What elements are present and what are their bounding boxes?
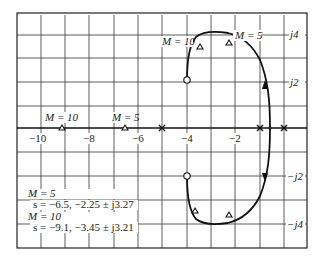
marker-m10-real: [59, 125, 65, 130]
y-tick-minus-j2: −j2: [287, 170, 303, 182]
legend-line-4: s = −9.1, −3.45 ± j3.21: [33, 221, 134, 233]
y-tick-j2: j2: [288, 76, 299, 88]
root-locus-plot: −10 −8 −6 −4 −2 j4 j2 −j2 −j4 M = 10 M =…: [0, 0, 321, 261]
label-m10-complex: M = 10: [161, 35, 196, 47]
label-m10-real: M = 10: [44, 111, 79, 123]
label-m5-real: M = 5: [111, 111, 140, 123]
x-tick-minus-8: −8: [83, 132, 95, 144]
x-tick-minus-4: −4: [181, 132, 193, 144]
legend-line-2: s = −6.5, −2.25 ± j3.27: [33, 198, 134, 210]
x-tick-minus-6: −6: [132, 132, 144, 144]
marker-m5-upper: [226, 40, 232, 45]
x-tick-minus-2: −2: [229, 132, 241, 144]
x-tick-minus-10: −10: [29, 132, 47, 144]
marker-m10-upper: [197, 44, 203, 49]
marker-m10-lower: [192, 208, 198, 213]
legend: M = 5 s = −6.5, −2.25 ± j3.27 M = 10 s =…: [26, 187, 138, 233]
zero-lower: [184, 173, 190, 179]
arrow-down-icon: [262, 173, 268, 182]
y-tick-j4: j4: [288, 28, 299, 40]
zero-upper: [184, 77, 190, 83]
y-tick-minus-j4: −j4: [287, 218, 303, 230]
marker-m5-real: [122, 125, 128, 130]
label-m5-complex: M = 5: [234, 29, 263, 41]
marker-m5-lower: [226, 212, 232, 217]
